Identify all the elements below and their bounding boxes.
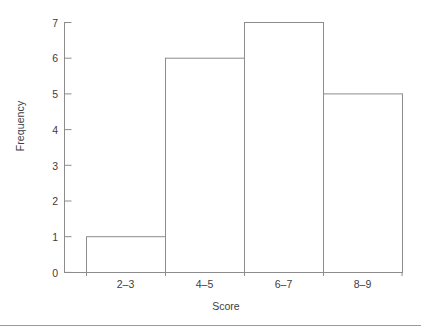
y-tick-marks <box>65 23 72 273</box>
bar-2-3 <box>87 237 166 273</box>
histogram-figure: Frequency 7 6 5 4 3 2 1 0 <box>0 0 421 334</box>
x-tick-label-6-7: 6–7 <box>244 279 323 290</box>
x-axis-title: Score <box>50 300 402 312</box>
x-bin-edge-ticks <box>87 273 403 277</box>
bar-6-7 <box>245 23 324 273</box>
x-tick-label-2-3: 2–3 <box>86 279 165 290</box>
x-tick-label-8-9: 8–9 <box>323 279 402 290</box>
bottom-divider <box>0 325 421 326</box>
x-tick-label-4-5: 4–5 <box>165 279 244 290</box>
bar-8-9 <box>324 94 403 273</box>
bar-4-5 <box>166 58 245 272</box>
